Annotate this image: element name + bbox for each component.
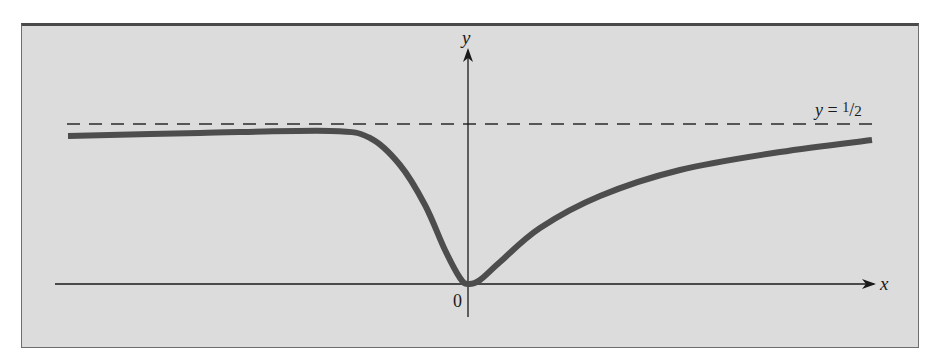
function-curve: [68, 131, 872, 284]
function-graph: y x 0 y = 1/2: [0, 0, 930, 364]
x-axis-label: x: [879, 273, 889, 294]
y-axis-label: y: [460, 27, 471, 48]
origin-label: 0: [453, 291, 462, 311]
asymptote-label: y = 1/2: [813, 100, 862, 120]
svg-text:y = 1/2: y = 1/2: [813, 100, 862, 120]
